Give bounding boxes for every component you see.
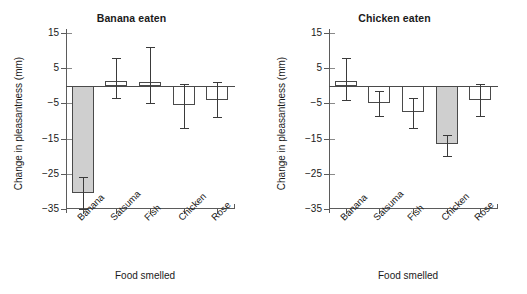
chart-panel-chicken-eaten: Chicken eaten Change in pleasantness (mm… xyxy=(263,0,526,294)
y-axis-tick xyxy=(324,174,329,175)
x-axis-tick-label: Satsuma xyxy=(371,188,406,223)
error-bar-cap-upper xyxy=(146,47,155,48)
error-bar-cap-lower xyxy=(342,100,351,101)
y-axis-line xyxy=(66,29,67,213)
error-bar-cap-lower xyxy=(476,116,485,117)
panel-title: Chicken eaten xyxy=(263,12,526,24)
y-axis-tick-label: −35 xyxy=(292,203,322,214)
x-axis-label: Food smelled xyxy=(55,270,235,281)
chart-panel-banana-eaten: Banana eaten Change in pleasantness (mm)… xyxy=(0,0,263,294)
plot-area: 155−5−15−25−35BananaSatsumaFishChickenRo… xyxy=(66,33,234,209)
y-axis-tick xyxy=(61,33,66,34)
y-axis-tick-label: −5 xyxy=(29,97,59,108)
y-axis-tick xyxy=(61,174,66,175)
error-bar-line xyxy=(116,58,117,98)
x-axis-tick-label: Rose xyxy=(209,199,233,223)
error-bar-line xyxy=(346,58,347,100)
error-bar-cap-upper xyxy=(443,135,452,136)
y-axis-line xyxy=(329,29,330,213)
error-bar-line xyxy=(83,177,84,209)
error-bar-cap-upper xyxy=(79,177,88,178)
x-axis-tick-label: Chicken xyxy=(176,190,208,222)
y-axis-tick-label: 15 xyxy=(292,27,322,38)
error-bar-cap-lower xyxy=(146,103,155,104)
error-bar-cap-upper xyxy=(409,98,418,99)
error-bar-cap-upper xyxy=(180,84,189,85)
error-bar-cap-lower xyxy=(180,128,189,129)
y-axis-tick-inner xyxy=(67,68,72,69)
y-axis-tick xyxy=(324,139,329,140)
error-bar-line xyxy=(413,98,414,128)
y-axis-tick-inner xyxy=(67,33,72,34)
y-axis-tick-inner xyxy=(330,139,335,140)
x-axis-label: Food smelled xyxy=(318,270,498,281)
plot-area: 155−5−15−25−35BananaSatsumaFishChickenRo… xyxy=(329,33,497,209)
error-bar-line xyxy=(217,82,218,117)
error-bar-line xyxy=(447,135,448,156)
y-axis-tick-inner xyxy=(330,174,335,175)
figure: Banana eaten Change in pleasantness (mm)… xyxy=(0,0,527,294)
error-bar-cap-lower xyxy=(79,209,88,210)
y-axis-tick-label: −5 xyxy=(292,97,322,108)
x-axis-tick-label: Fish xyxy=(142,202,163,223)
error-bar-cap-upper xyxy=(476,84,485,85)
y-axis-tick-label: −25 xyxy=(292,168,322,179)
x-axis-end-tick xyxy=(497,204,498,209)
error-bar-cap-lower xyxy=(409,128,418,129)
error-bar-cap-upper xyxy=(213,82,222,83)
y-axis-label: Change in pleasantness (mm) xyxy=(276,44,287,204)
panel-title: Banana eaten xyxy=(0,12,263,24)
y-axis-tick xyxy=(324,33,329,34)
y-axis-tick xyxy=(324,68,329,69)
y-axis-tick-label: 5 xyxy=(29,62,59,73)
y-axis-tick-inner xyxy=(330,103,335,104)
error-bar-cap-upper xyxy=(342,58,351,59)
y-axis-tick-label: −35 xyxy=(29,203,59,214)
x-axis-tick-label: Rose xyxy=(472,199,496,223)
y-axis-tick xyxy=(324,209,329,210)
error-bar-cap-lower xyxy=(112,98,121,99)
x-axis-tick-label: Fish xyxy=(405,202,426,223)
x-axis-end-tick xyxy=(234,204,235,209)
y-axis-tick-label: −25 xyxy=(29,168,59,179)
error-bar-cap-upper xyxy=(375,91,384,92)
error-bar-cap-lower xyxy=(213,117,222,118)
y-axis-tick-label: 15 xyxy=(29,27,59,38)
y-axis-tick xyxy=(61,139,66,140)
error-bar-line xyxy=(379,91,380,116)
y-axis-tick-label: −15 xyxy=(292,133,322,144)
error-bar-cap-lower xyxy=(375,116,384,117)
y-axis-tick xyxy=(61,68,66,69)
y-axis-tick-inner xyxy=(330,33,335,34)
y-axis-tick xyxy=(61,209,66,210)
error-bar-line xyxy=(480,84,481,116)
x-axis-tick-label: Satsuma xyxy=(108,188,143,223)
y-axis-label: Change in pleasantness (mm) xyxy=(13,44,24,204)
x-axis-tick-label: Chicken xyxy=(439,190,471,222)
y-axis-tick-label: −15 xyxy=(29,133,59,144)
y-axis-tick xyxy=(61,103,66,104)
y-axis-tick xyxy=(324,103,329,104)
error-bar-line xyxy=(150,47,151,103)
error-bar-cap-lower xyxy=(443,156,452,157)
y-axis-tick-inner xyxy=(330,68,335,69)
error-bar-line xyxy=(184,84,185,128)
error-bar-cap-upper xyxy=(112,58,121,59)
y-axis-tick-label: 5 xyxy=(292,62,322,73)
